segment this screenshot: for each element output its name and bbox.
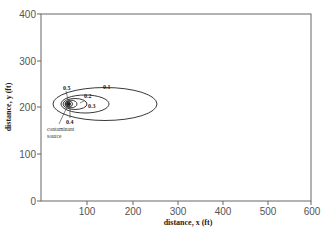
x-tick-100: 100 — [79, 206, 96, 217]
x-tick-400: 400 — [215, 206, 232, 217]
plot-area — [41, 14, 311, 201]
y-tick-0: 0 — [30, 196, 36, 207]
x-axis — [87, 201, 311, 205]
contour-chart: 400 300 200 100 0 100 200 300 400 500 60… — [0, 0, 327, 236]
contour-label-0.5: 0.5 — [63, 85, 71, 91]
y-tick-200: 200 — [19, 102, 36, 113]
x-tick-500: 500 — [260, 206, 277, 217]
contour-label-0.3: 0.3 — [88, 103, 96, 109]
contour-label-0.1: 0.1 — [103, 84, 111, 90]
y-tick-300: 300 — [19, 56, 36, 67]
x-tick-600: 600 — [304, 206, 321, 217]
y-axis — [37, 14, 41, 201]
contour-label-0.4: 0.4 — [66, 119, 74, 125]
contour-label-0.2: 0.2 — [84, 93, 92, 99]
x-tick-300: 300 — [170, 206, 187, 217]
y-axis-label: distance, y (ft) — [4, 82, 13, 131]
x-axis-label: distance, x (ft) — [164, 218, 213, 227]
y-tick-400: 400 — [19, 9, 36, 20]
x-tick-200: 200 — [125, 206, 142, 217]
source-label-line2: source — [47, 133, 62, 139]
y-tick-100: 100 — [19, 149, 36, 160]
source-label-line1: contaminant — [47, 126, 75, 132]
